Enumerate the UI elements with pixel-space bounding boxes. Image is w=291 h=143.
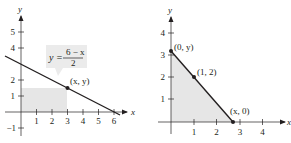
point-label-x-y: (x, y) <box>70 76 90 86</box>
equation-lhs: y = <box>48 52 63 63</box>
svg-text:1: 1 <box>11 91 16 101</box>
svg-text:1: 1 <box>161 94 166 104</box>
equation-numerator: 6 − x <box>66 47 85 57</box>
svg-text:2: 2 <box>50 116 55 126</box>
svg-text:1: 1 <box>34 116 39 126</box>
svg-text:3: 3 <box>65 116 70 126</box>
svg-text:4: 4 <box>81 116 86 126</box>
equation-callout: y = 6 − x 2 <box>46 45 87 76</box>
y-axis-label: y <box>167 5 172 15</box>
x-tick-labels: 1 2 3 4 <box>192 127 266 137</box>
figure: y = 6 − x 2 x y 1 2 3 4 5 <box>0 0 291 143</box>
svg-text:2: 2 <box>11 75 16 85</box>
shaded-rectangle <box>21 88 67 112</box>
svg-text:5: 5 <box>11 27 16 37</box>
svg-text:−1: −1 <box>6 123 16 133</box>
svg-text:4: 4 <box>11 43 16 53</box>
svg-text:4: 4 <box>161 28 166 38</box>
svg-text:2: 2 <box>214 127 219 137</box>
svg-text:2: 2 <box>161 72 166 82</box>
left-graph: y = 6 − x 2 x y 1 2 3 4 5 <box>5 4 135 136</box>
y-tick-labels: 1 2 3 4 <box>161 28 166 104</box>
x-axis-label: x <box>286 117 291 127</box>
point-0-y <box>169 49 173 53</box>
point-label-1-2: (1, 2) <box>197 67 217 77</box>
point-label-x-0: (x, 0) <box>230 106 250 116</box>
point-1-2 <box>192 75 196 79</box>
x-tick-labels: 1 2 3 4 5 6 <box>34 116 117 126</box>
svg-text:1: 1 <box>192 127 197 137</box>
point-x-y <box>66 86 70 90</box>
point-x-0 <box>231 120 235 124</box>
svg-text:3: 3 <box>238 127 243 137</box>
svg-text:3: 3 <box>161 50 166 60</box>
x-axis-label: x <box>130 107 135 117</box>
right-graph: x y 1 2 3 4 1 2 3 4 (0, y) (1, 2) <box>158 5 291 137</box>
svg-text:4: 4 <box>260 127 265 137</box>
svg-text:5: 5 <box>96 116 101 126</box>
y-tick-labels: −1 1 2 4 5 <box>6 27 16 133</box>
point-label-0-y: (0, y) <box>174 42 194 52</box>
equation-denominator: 2 <box>71 58 76 68</box>
svg-text:6: 6 <box>112 116 117 126</box>
y-axis-label: y <box>17 4 22 14</box>
